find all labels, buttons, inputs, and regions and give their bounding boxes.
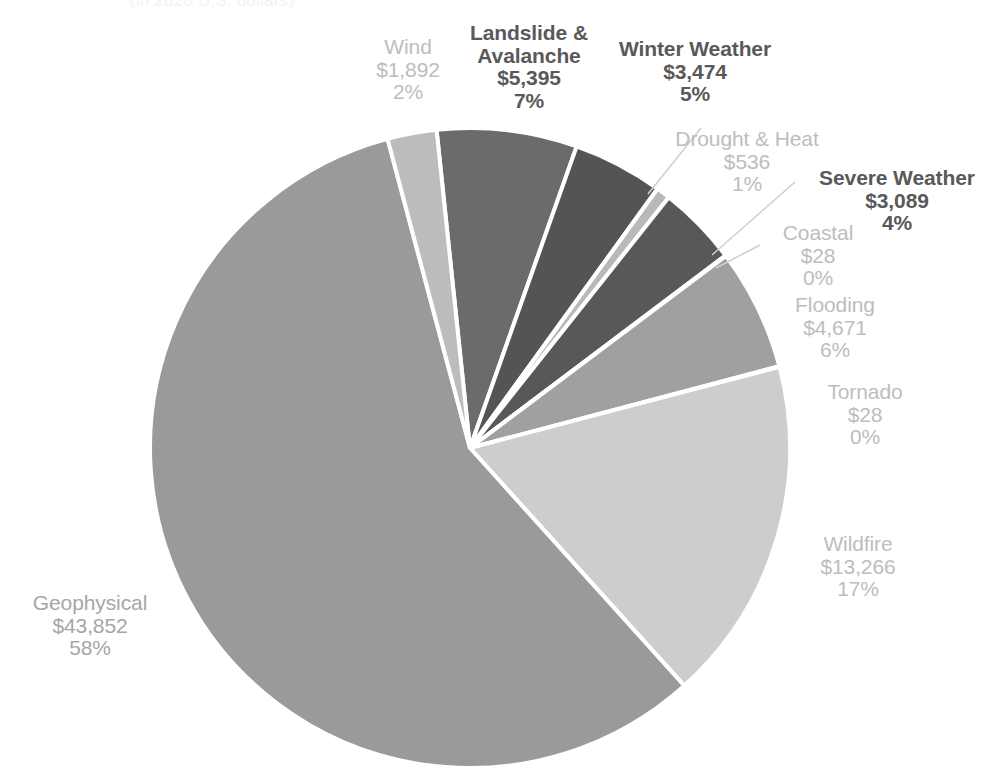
pie-label-percent: 0%	[770, 267, 866, 290]
pie-label-name: Drought & Heat	[665, 128, 829, 151]
pie-label-landslide-avalanche: Landslide &Avalanche$5,3957%	[463, 22, 595, 113]
pie-label-percent: 1%	[665, 173, 829, 196]
pie-label-value: $3,089	[808, 190, 986, 213]
pie-label-name: Wildfire	[794, 533, 922, 556]
pie-label-winter-weather: Winter Weather$3,4745%	[611, 38, 779, 106]
pie-label-percent: 5%	[611, 83, 779, 106]
pie-label-drought-heat: Drought & Heat$5361%	[665, 128, 829, 196]
pie-label-name: Wind	[360, 36, 456, 59]
pie-slices	[150, 128, 790, 768]
pie-label-name: Geophysical	[15, 592, 165, 615]
pie-label-value: $3,474	[611, 61, 779, 84]
pie-label-name-line2: Avalanche	[463, 45, 595, 68]
pie-label-value: $1,892	[360, 59, 456, 82]
pie-label-percent: 0%	[812, 426, 918, 449]
chart-canvas: (in 2020 U.S. dollars) Wind$1,8922%Lands…	[0, 0, 999, 778]
pie-label-geophysical: Geophysical$43,85258%	[15, 592, 165, 660]
pie-label-name: Flooding	[780, 294, 890, 317]
pie-label-percent: 6%	[780, 339, 890, 362]
pie-label-value: $28	[770, 245, 866, 268]
pie-label-value: $4,671	[780, 317, 890, 340]
pie-label-wildfire: Wildfire$13,26617%	[794, 533, 922, 601]
pie-label-tornado: Tornado$280%	[812, 381, 918, 449]
pie-label-percent: 7%	[463, 90, 595, 113]
pie-label-name: Tornado	[812, 381, 918, 404]
pie-label-name: Coastal	[770, 222, 866, 245]
pie-label-name-line1: Landslide &	[463, 22, 595, 45]
pie-label-percent: 58%	[15, 637, 165, 660]
pie-label-value: $536	[665, 151, 829, 174]
pie-label-value: $5,395	[463, 67, 595, 90]
pie-label-percent: 17%	[794, 578, 922, 601]
pie-label-wind: Wind$1,8922%	[360, 36, 456, 104]
pie-label-value: $43,852	[15, 615, 165, 638]
pie-label-name: Severe Weather	[808, 167, 986, 190]
pie-label-value: $28	[812, 404, 918, 427]
pie-label-name: Landslide &Avalanche	[463, 22, 595, 67]
pie-label-name: Winter Weather	[611, 38, 779, 61]
pie-label-percent: 2%	[360, 81, 456, 104]
pie-label-coastal: Coastal$280%	[770, 222, 866, 290]
pie-label-flooding: Flooding$4,6716%	[780, 294, 890, 362]
pie-label-value: $13,266	[794, 556, 922, 579]
